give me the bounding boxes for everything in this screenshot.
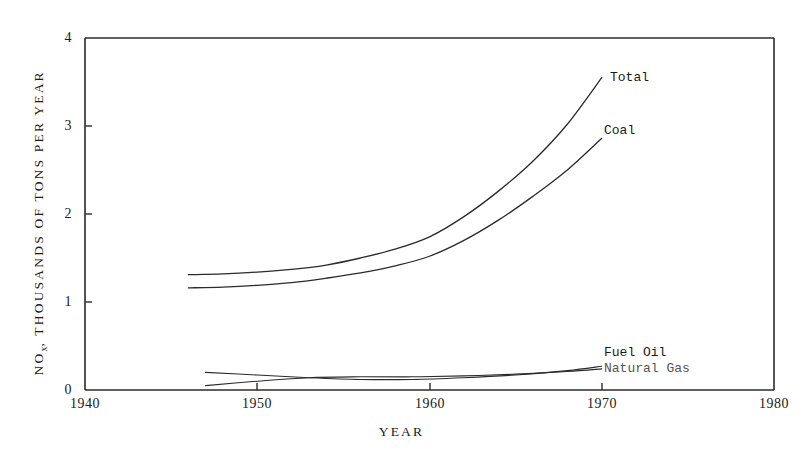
y-axis-title-rest: , THOUSANDS OF TONS PER YEAR [31,70,46,346]
ytick-label-4: 4 [52,30,72,46]
x-axis-title: YEAR [0,424,803,440]
series-label-fuel-oil: Fuel Oil [604,345,666,360]
y-axis-title-subscript: x [38,347,49,352]
xtick-label-1950: 1950 [242,396,272,412]
series-path-total [188,78,601,275]
xtick-label-1940: 1940 [70,396,100,412]
series-label-natural-gas: Natural Gas [604,361,690,376]
xtick-label-1960: 1960 [415,396,445,412]
series-label-coal: Coal [604,123,635,138]
y-axis-title: NOx, THOUSANDS OF TONS PER YEAR [31,53,49,393]
series-group [188,78,601,386]
ytick-label-0: 0 [52,382,72,398]
series-path-natural-gas [206,369,602,386]
series-label-total: Total [610,70,649,85]
y-axis-title-base: NO [31,352,46,376]
xtick-label-1970: 1970 [587,396,617,412]
series-path-coal [188,138,601,288]
ytick-label-2: 2 [52,206,72,222]
chart-figure: 4 3 2 1 0 1940 1950 1960 1970 1980 YEAR … [0,0,803,456]
xtick-label-1980: 1980 [759,396,789,412]
ytick-label-3: 3 [52,118,72,134]
chart-plot-area [0,0,803,456]
ytick-label-1: 1 [52,294,72,310]
